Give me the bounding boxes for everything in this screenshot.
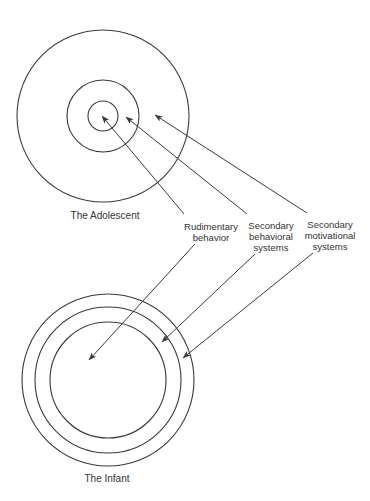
- development-diagram: The Adolescent The Infant Rudimentary be…: [0, 0, 370, 501]
- arrow-secondary-motivational-systems-to-infant: [183, 253, 313, 358]
- rudimentary-behavior-ring: [88, 101, 118, 131]
- label-line: Rudimentary: [184, 221, 238, 232]
- label-line: behavior: [184, 232, 238, 243]
- secondary-behavioral-ring: [35, 307, 181, 453]
- infant-caption: The Infant: [84, 473, 129, 484]
- adolescent-circles: [17, 30, 189, 202]
- label-rudimentary-behavior: Rudimentary behavior: [184, 221, 238, 243]
- infant-circles: [22, 294, 194, 466]
- label-line: systems: [305, 241, 356, 252]
- label-secondary-behavioral-systems: Secondary behavioral systems: [248, 220, 293, 253]
- label-line: motivational: [305, 230, 356, 241]
- secondary-motivational-ring: [22, 294, 194, 466]
- arrow-secondary-motivational-systems-to-adolescent: [155, 115, 307, 213]
- secondary-behavioral-ring: [67, 80, 139, 152]
- arrow-secondary-behavioral-systems-to-adolescent: [126, 117, 247, 214]
- label-secondary-motivational-systems: Secondary motivational systems: [305, 219, 356, 252]
- arrow-rudimentary-behavior-to-infant: [89, 244, 195, 360]
- label-line: behavioral: [248, 231, 293, 242]
- secondary-motivational-ring: [17, 30, 189, 202]
- label-line: systems: [248, 242, 293, 253]
- label-line: Secondary: [248, 220, 293, 231]
- label-line: Secondary: [305, 219, 356, 230]
- adolescent-caption: The Adolescent: [71, 210, 140, 221]
- arrow-secondary-behavioral-systems-to-infant: [162, 254, 255, 342]
